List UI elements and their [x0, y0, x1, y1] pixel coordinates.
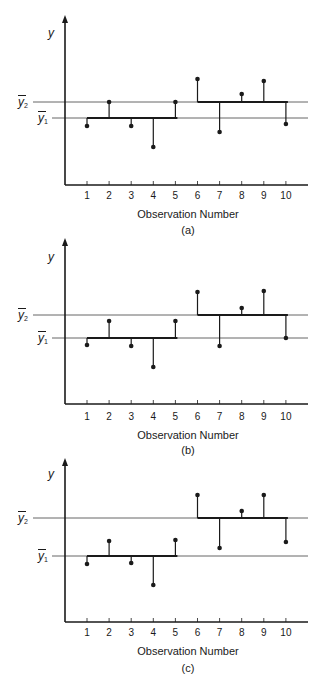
x-tick-label: 3 — [121, 627, 141, 638]
ybar1-label: y1 — [38, 112, 48, 128]
data-point — [151, 145, 156, 150]
data-point — [129, 561, 134, 566]
overbar — [38, 549, 46, 550]
data-point — [151, 583, 156, 588]
x-tick-label: 5 — [165, 411, 185, 422]
data-point — [173, 319, 178, 324]
ybar1-subscript: 1 — [44, 118, 48, 125]
data-point — [284, 540, 289, 545]
x-tick-label: 1 — [77, 627, 97, 638]
x-tick-label: 8 — [232, 190, 252, 201]
x-axis-label: Observation Number — [0, 208, 331, 220]
data-point — [107, 539, 112, 544]
ybar1-label: y1 — [38, 332, 48, 348]
data-point — [173, 538, 178, 543]
data-point — [217, 546, 222, 551]
x-tick-label: 6 — [188, 190, 208, 201]
x-tick-label: 10 — [276, 190, 296, 201]
data-point — [107, 319, 112, 324]
x-tick-label: 1 — [77, 190, 97, 201]
x-tick-label: 5 — [165, 190, 185, 201]
x-tick-label: 4 — [143, 627, 163, 638]
x-tick-label: 7 — [210, 411, 230, 422]
x-axis-label: Observation Number — [0, 645, 331, 657]
data-point — [129, 344, 134, 349]
chart-plot-b — [0, 230, 331, 460]
ybar2-label: y2 — [18, 512, 28, 528]
x-tick-label: 10 — [276, 627, 296, 638]
data-point — [262, 79, 267, 84]
data-point — [284, 122, 289, 127]
data-point — [151, 365, 156, 370]
x-tick-label: 9 — [254, 190, 274, 201]
data-point — [173, 100, 178, 105]
chart-panel-a: y y2 y1 12345678910 Observation Number (… — [0, 0, 331, 240]
ybar1-subscript: 1 — [44, 556, 48, 563]
ybar2-label: y2 — [18, 96, 28, 112]
data-point — [262, 493, 267, 498]
x-tick-label: 6 — [188, 411, 208, 422]
data-point — [239, 306, 244, 311]
x-tick-label: 9 — [254, 411, 274, 422]
ybar2-subscript: 2 — [24, 518, 28, 525]
data-point — [195, 290, 200, 295]
x-tick-label: 2 — [99, 627, 119, 638]
x-tick-label: 8 — [232, 627, 252, 638]
y-axis-label: y — [48, 250, 54, 264]
data-point — [85, 562, 90, 567]
x-tick-label: 4 — [143, 190, 163, 201]
ybar2-subscript: 2 — [24, 102, 28, 109]
x-tick-label: 7 — [210, 627, 230, 638]
ybar1-subscript: 1 — [44, 338, 48, 345]
x-tick-label: 7 — [210, 190, 230, 201]
x-tick-label: 5 — [165, 627, 185, 638]
panel-caption: (c) — [0, 662, 331, 674]
overbar — [38, 111, 46, 112]
overbar — [38, 331, 46, 332]
overbar — [18, 511, 26, 512]
x-tick-label: 2 — [99, 411, 119, 422]
y-axis-label: y — [48, 467, 54, 481]
data-point — [85, 343, 90, 348]
data-point — [217, 130, 222, 135]
x-tick-label: 3 — [121, 190, 141, 201]
y-axis-arrow-icon — [62, 15, 68, 23]
data-point — [262, 289, 267, 294]
data-point — [284, 336, 289, 341]
x-tick-label: 10 — [276, 411, 296, 422]
x-tick-label: 2 — [99, 190, 119, 201]
data-point — [85, 124, 90, 129]
y-axis-label: y — [48, 26, 54, 40]
x-tick-label: 6 — [188, 627, 208, 638]
ybar2-subscript: 2 — [24, 315, 28, 322]
chart-panel-b: y y2 y1 12345678910 Observation Number (… — [0, 230, 331, 460]
data-point — [239, 92, 244, 97]
x-tick-label: 3 — [121, 411, 141, 422]
data-point — [217, 344, 222, 349]
y-axis-arrow-icon — [62, 458, 68, 466]
x-tick-label: 4 — [143, 411, 163, 422]
chart-panel-c: y y2 y1 12345678910 Observation Number (… — [0, 455, 331, 688]
data-point — [195, 77, 200, 82]
y-axis-arrow-icon — [62, 238, 68, 246]
x-tick-label: 9 — [254, 627, 274, 638]
overbar — [18, 95, 26, 96]
ybar1-label: y1 — [38, 550, 48, 566]
overbar — [18, 308, 26, 309]
x-tick-label: 1 — [77, 411, 97, 422]
ybar2-label: y2 — [18, 309, 28, 325]
x-tick-label: 8 — [232, 411, 252, 422]
data-point — [195, 493, 200, 498]
data-point — [129, 124, 134, 129]
data-point — [107, 100, 112, 105]
x-axis-label: Observation Number — [0, 429, 331, 441]
data-point — [239, 509, 244, 514]
